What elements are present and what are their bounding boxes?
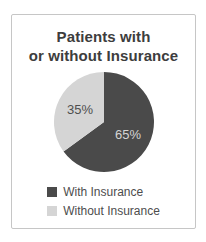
screenshot-stage: Patients with or without Insurance 65%35…	[0, 0, 206, 242]
legend-swatch-icon	[47, 206, 57, 216]
legend-label: Without Insurance	[63, 205, 160, 217]
chart-card: Patients with or without Insurance 65%35…	[11, 14, 196, 229]
chart-title: Patients with or without Insurance	[12, 27, 195, 65]
chart-title-line-1: Patients with	[12, 27, 195, 46]
legend-swatch-icon	[47, 187, 57, 197]
legend-item-0: With Insurance	[47, 186, 160, 198]
pie-slice-label-0: 65%	[115, 127, 141, 142]
legend-label: With Insurance	[63, 186, 143, 198]
legend-item-1: Without Insurance	[47, 205, 160, 217]
chart-title-line-2: or without Insurance	[12, 46, 195, 65]
pie-slice-label-1: 35%	[66, 102, 92, 117]
legend: With InsuranceWithout Insurance	[47, 186, 160, 217]
pie-chart: 65%35%	[53, 71, 155, 173]
pie-chart-area: 65%35%	[12, 71, 195, 173]
